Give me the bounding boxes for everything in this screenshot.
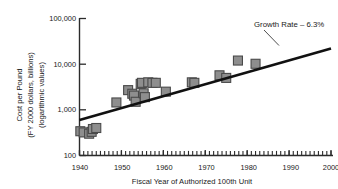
x-tick-label: 1970: [198, 163, 214, 172]
x-tick-label: 1940: [72, 163, 88, 172]
y-tick-label: 100: [64, 151, 76, 160]
x-tick-label: 2000: [323, 163, 338, 172]
data-point-marker: [251, 59, 260, 68]
x-tick-label: 1980: [240, 163, 256, 172]
data-point-marker: [92, 124, 101, 133]
y-axis-title-line-2: (FY 2000 dollars, billions): [26, 52, 35, 138]
data-point-marker: [233, 56, 242, 65]
x-tick-label: 1960: [156, 163, 172, 172]
data-point-marker: [112, 98, 121, 107]
growth-rate-annotation: Growth Rate – 6.3%: [254, 20, 324, 29]
y-tick-label: 100,000: [49, 14, 76, 23]
annotation-leader-line: [264, 30, 279, 46]
chart-figure: 100,000 10,000 1,000 100 1940 1950 1960 …: [0, 0, 338, 189]
y-tick-label: 10,000: [53, 60, 76, 69]
data-point-group: [76, 56, 260, 138]
x-axis-tick-labels: 1940 1950 1960 1970 1980 1990 2000: [72, 163, 338, 172]
y-axis-title: Cost per Pound (FY 2000 dollars, billion…: [15, 52, 46, 138]
y-axis-tick-labels: 100,000 10,000 1,000 100: [49, 14, 76, 160]
trend-line: [80, 49, 332, 120]
y-tick-label: 1,000: [58, 105, 77, 114]
y-axis-title-line-1: Cost per Pound: [15, 69, 24, 122]
chart-canvas: 100,000 10,000 1,000 100 1940 1950 1960 …: [0, 0, 338, 189]
data-point-marker: [151, 78, 160, 87]
x-tick-label: 1990: [283, 163, 299, 172]
x-axis-title: Fiscal Year of Authorized 100th Unit: [132, 177, 253, 186]
y-axis-title-line-3: (logarithmic values): [37, 62, 46, 128]
x-tick-label: 1950: [114, 163, 130, 172]
